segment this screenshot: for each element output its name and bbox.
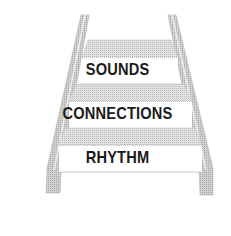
step-label-sounds: SOUNDS [18, 60, 217, 80]
staircase-diagram: SOUNDS CONNECTIONS RHYTHM [0, 0, 231, 236]
step-label-rhythm: RHYTHM [18, 148, 217, 168]
step-label-connections: CONNECTIONS [18, 104, 217, 124]
